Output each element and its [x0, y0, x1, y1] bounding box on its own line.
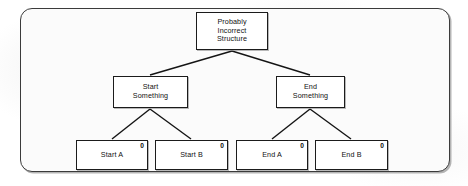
node-start-a-badge: 0 — [140, 142, 144, 150]
node-end-a-badge: 0 — [300, 142, 304, 150]
node-start-b-label: Start B — [180, 151, 203, 160]
node-root[interactable]: Probably Incorrect Structure — [196, 12, 268, 50]
node-start-a-label: Start A — [101, 151, 123, 160]
diagram-page: Probably Incorrect Structure Start Somet… — [0, 0, 468, 186]
node-start-b-badge: 0 — [220, 142, 224, 150]
node-end-b-badge: 0 — [380, 142, 384, 150]
node-end-b-label: End B — [341, 151, 361, 160]
node-start-something-label: Start Something — [133, 83, 168, 100]
node-start-b[interactable]: 0 Start B — [155, 140, 228, 170]
node-end-something[interactable]: End Something — [276, 76, 345, 108]
node-start-a[interactable]: 0 Start A — [76, 140, 148, 170]
node-start-something[interactable]: Start Something — [113, 76, 188, 108]
node-end-something-label: End Something — [293, 83, 328, 100]
node-end-a[interactable]: 0 End A — [236, 140, 308, 170]
node-end-b[interactable]: 0 End B — [315, 140, 388, 170]
node-end-a-label: End A — [262, 151, 282, 160]
node-root-label: Probably Incorrect Structure — [217, 18, 247, 44]
